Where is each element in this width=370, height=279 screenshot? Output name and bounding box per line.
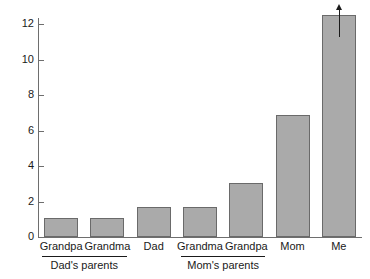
bar [90, 218, 124, 237]
y-axis-tick-label: 2 [4, 196, 34, 207]
x-axis-category-label: Grandma [84, 240, 130, 253]
bar [276, 115, 310, 237]
up-arrow-icon [339, 9, 340, 37]
x-axis-category-label: Me [316, 240, 362, 253]
bar [229, 183, 263, 237]
bar [322, 15, 356, 237]
y-axis-tick-label: 12 [4, 18, 34, 29]
y-axis-tick-label: 6 [4, 125, 34, 136]
y-axis-tick-label: 4 [4, 160, 34, 171]
y-axis-tick-label: 0 [4, 231, 34, 242]
x-axis-line [38, 237, 362, 238]
bar [137, 207, 171, 237]
x-axis-category-label: Grandpa [38, 240, 84, 253]
x-axis-category-label: Dad [131, 240, 177, 253]
bar [183, 207, 217, 237]
plot-area [38, 10, 362, 237]
group-underline [181, 256, 266, 257]
group-underline [42, 256, 127, 257]
bar-chart: 024681012 GrandpaGrandmaDadGrandmaGrandp… [0, 0, 370, 279]
bar [44, 218, 78, 237]
x-axis-category-label: Mom [269, 240, 315, 253]
group-label: Dad's parents [42, 259, 127, 272]
y-axis-tick-label: 8 [4, 89, 34, 100]
y-axis-tick-label: 10 [4, 54, 34, 65]
x-axis-category-label: Grandpa [223, 240, 269, 253]
x-axis-category-label: Grandma [177, 240, 223, 253]
group-label: Mom's parents [181, 259, 266, 272]
